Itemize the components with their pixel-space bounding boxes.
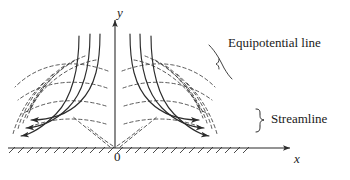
streamline-label: Streamline [271, 112, 327, 125]
origin-label: 0 [114, 150, 121, 163]
streamlines-left [21, 34, 100, 136]
equipotential-lines-left [13, 56, 113, 147]
streamline-arrow [140, 34, 204, 128]
equipotential-curve [123, 82, 212, 100]
equipotential-line-label: Equipotential line [228, 36, 321, 49]
equipotential-lines-right [117, 56, 217, 147]
x-axis-label: x [294, 152, 300, 165]
equipotential-curve [124, 119, 200, 127]
equipotential-curve [18, 82, 107, 100]
equipotential-curve [27, 60, 75, 118]
figure-canvas: Equipotential line Streamline 0 x y [0, 0, 350, 180]
equipotential-curve [23, 66, 64, 123]
equipotential-curve [117, 127, 142, 146]
equipotential-curve [155, 60, 203, 118]
equipotential-curve [166, 66, 207, 123]
streamline-brace [256, 109, 264, 132]
equipotential-curve [30, 119, 106, 127]
y-axis-label: y [117, 6, 123, 19]
equipotential-leader [209, 45, 232, 79]
streamlines-right [130, 34, 209, 136]
equipotential-curve [88, 127, 113, 146]
streamline-arrow [26, 34, 90, 128]
